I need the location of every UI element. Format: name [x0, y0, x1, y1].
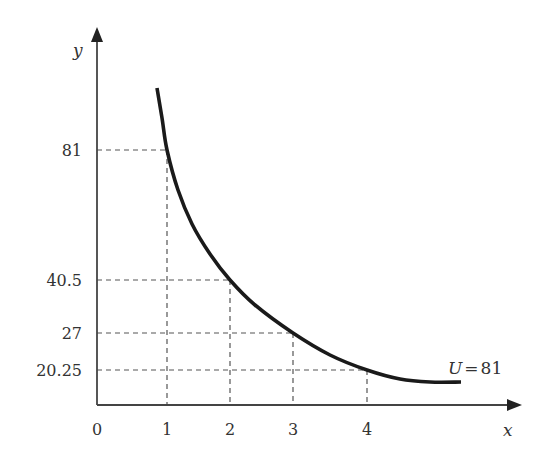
y-tick-label: 81: [62, 141, 82, 160]
y-axis-arrow-icon: [91, 27, 103, 42]
x-tick-label: 1: [162, 420, 172, 439]
x-tick-label: 2: [225, 420, 235, 439]
y-axis-title: y: [72, 40, 83, 60]
curve-label-var: U: [448, 358, 463, 378]
curve-label-eq: =: [464, 358, 478, 378]
curve-label-value: 81: [481, 358, 503, 378]
x-tick-label: 4: [362, 420, 372, 439]
axes: [91, 27, 522, 411]
x-axis-arrow-icon: [507, 399, 522, 411]
origin-label: 0: [92, 420, 102, 439]
y-tick-label: 40.5: [46, 271, 82, 290]
indifference-curve-chart: 123420.252740.581 y x 0 U=81: [0, 0, 547, 474]
y-tick-label: 20.25: [36, 361, 82, 380]
tick-labels: 123420.252740.581: [36, 141, 372, 439]
indifference-curve: [157, 88, 461, 382]
y-tick-label: 27: [62, 324, 82, 343]
curve-label: U=81: [448, 358, 502, 378]
guide-lines: [97, 150, 367, 405]
x-axis-title: x: [503, 420, 513, 440]
x-tick-label: 3: [288, 420, 298, 439]
